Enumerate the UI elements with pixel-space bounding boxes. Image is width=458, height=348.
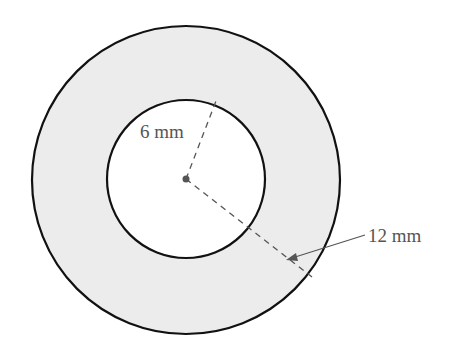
center-point bbox=[183, 176, 190, 183]
annulus-diagram bbox=[0, 0, 458, 348]
outer-radius-label: 12 mm bbox=[368, 225, 421, 247]
inner-radius-label: 6 mm bbox=[140, 121, 184, 143]
